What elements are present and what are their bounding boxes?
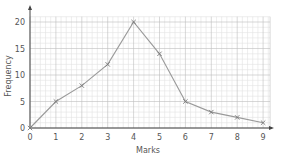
y-axis-label: Frequency [4,55,13,97]
svg-text:5: 5 [20,98,25,107]
svg-text:10: 10 [15,71,25,80]
x-axis-label: Marks [136,146,160,155]
svg-text:9: 9 [261,133,266,142]
svg-text:1: 1 [53,133,58,142]
svg-text:4: 4 [131,133,136,142]
svg-text:0: 0 [20,124,25,133]
svg-text:0: 0 [27,133,32,142]
svg-text:3: 3 [105,133,110,142]
svg-text:8: 8 [235,133,240,142]
svg-text:7: 7 [209,133,214,142]
grid-minor [30,17,270,128]
svg-text:6: 6 [183,133,188,142]
svg-text:20: 20 [15,18,25,27]
svg-text:5: 5 [157,133,162,142]
svg-text:2: 2 [79,133,84,142]
frequency-polygon-chart: 012345678905101520 Marks Frequency [0,0,285,158]
svg-text:15: 15 [15,45,25,54]
